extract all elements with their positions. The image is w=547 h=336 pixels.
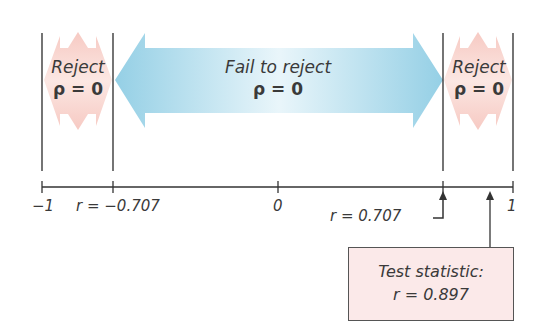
left-reject-hypothesis: ρ = 0 <box>38 78 118 100</box>
arrowhead-icon <box>439 191 447 200</box>
left-reject-label: Reject ρ = 0 <box>38 56 118 100</box>
test-statistic-value: r = 0.897 <box>349 283 513 306</box>
right-reject-label: Reject ρ = 0 <box>439 56 519 100</box>
test-statistic-title: Test statistic: <box>349 260 513 283</box>
fail-to-reject-hypothesis: ρ = 0 <box>178 78 378 100</box>
right-reject-hypothesis: ρ = 0 <box>439 78 519 100</box>
tick-label-0: 0 <box>273 197 283 215</box>
tick-label-pos0707: r = 0.707 <box>330 207 401 225</box>
tick-label-neg1: −1 <box>32 197 54 215</box>
fail-to-reject-label: Fail to reject ρ = 0 <box>178 56 378 100</box>
fail-to-reject-text: Fail to reject <box>178 56 378 78</box>
left-reject-text: Reject <box>38 56 118 78</box>
right-reject-text: Reject <box>439 56 519 78</box>
tick-label-neg0707: r = −0.707 <box>76 197 160 215</box>
tick-label-pos1: 1 <box>507 197 517 215</box>
arrowhead-icon <box>486 191 494 200</box>
test-statistic-box: Test statistic: r = 0.897 <box>348 247 514 321</box>
